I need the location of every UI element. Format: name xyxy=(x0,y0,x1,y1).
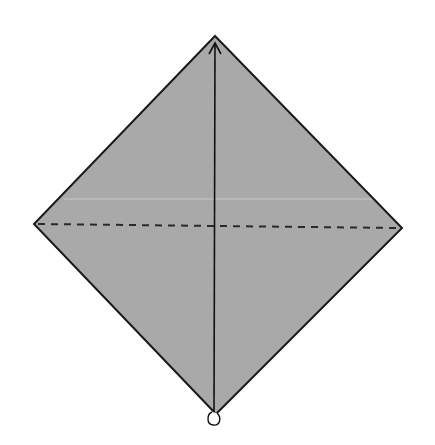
fold-arrow-shaft xyxy=(214,44,215,414)
paper-diamond xyxy=(34,36,402,414)
fold-arrow-start-loop-icon xyxy=(208,412,220,425)
origami-fold-diagram xyxy=(0,0,435,445)
